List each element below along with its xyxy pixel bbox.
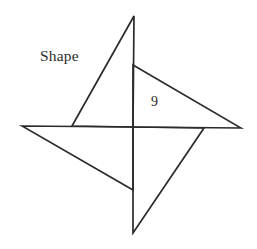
pinwheel-figure: Shape 9	[0, 0, 257, 249]
upper-right-triangle	[133, 65, 241, 128]
upper-left-triangle	[72, 16, 134, 127]
length-label-9: 9	[151, 95, 158, 109]
lower-left-triangle	[22, 126, 133, 190]
lower-right-triangle	[133, 127, 204, 233]
shape-label: Shape	[40, 48, 79, 64]
pinwheel-diagram-svg	[0, 0, 257, 249]
